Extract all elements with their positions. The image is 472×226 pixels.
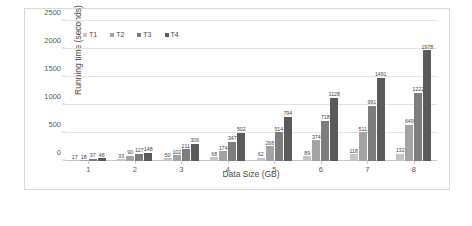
bar-rect[interactable] — [191, 144, 199, 161]
bar-rect[interactable] — [89, 159, 97, 161]
bar-value-label: 50 — [165, 152, 171, 158]
bar-rect[interactable] — [303, 156, 311, 161]
bar-value-label: 127 — [135, 147, 144, 153]
bar-t2[interactable]: 102 — [173, 21, 181, 161]
bar-t2[interactable]: 90 — [126, 21, 134, 161]
bar-t3[interactable]: 514 — [275, 21, 283, 161]
bar-rect[interactable] — [182, 149, 190, 161]
bar-t3[interactable]: 1222 — [414, 21, 422, 161]
bar-rect[interactable] — [71, 160, 79, 161]
bar-t1[interactable]: 50 — [164, 21, 172, 161]
bar-t2[interactable]: 174 — [219, 21, 227, 161]
y-tick-label: 500 — [48, 120, 61, 129]
bar-group: 33901271482 — [112, 21, 159, 161]
bar-t1[interactable]: 62 — [257, 21, 265, 161]
bar-rect[interactable] — [396, 154, 404, 161]
bar-value-label: 794 — [283, 110, 292, 116]
bar-rect[interactable] — [228, 142, 236, 161]
bar-rect[interactable] — [377, 78, 385, 161]
bar-rect[interactable] — [368, 106, 376, 161]
bar-t1[interactable]: 132 — [396, 21, 404, 161]
bar-t3[interactable]: 347 — [228, 21, 236, 161]
bar-rect[interactable] — [135, 154, 143, 161]
bar-group: 8937471811286 — [298, 21, 345, 161]
bar-value-label: 18 — [81, 154, 87, 160]
x-tick-mark — [88, 161, 89, 164]
bar-t1[interactable]: 33 — [117, 21, 125, 161]
bar-t2[interactable]: 18 — [80, 21, 88, 161]
bar-rect[interactable] — [321, 121, 329, 161]
bar-t4[interactable]: 794 — [284, 21, 292, 161]
bar-value-label: 17 — [72, 154, 78, 160]
bar-t2[interactable]: 268 — [266, 21, 274, 161]
bar-t4[interactable]: 46 — [98, 21, 106, 161]
bar-rect[interactable] — [210, 157, 218, 161]
bar-group: 132649122219788 — [391, 21, 438, 161]
bar-t2[interactable]: 511 — [359, 21, 367, 161]
bar-rect[interactable] — [284, 117, 292, 161]
bar-rect[interactable] — [275, 132, 283, 161]
bar-t4[interactable]: 306 — [191, 21, 199, 161]
bar-value-label: 148 — [144, 146, 153, 152]
bar-group: 681743475024 — [205, 21, 252, 161]
bar-t4[interactable]: 1128 — [330, 21, 338, 161]
bar-t4[interactable]: 1491 — [377, 21, 385, 161]
bar-group: 171837461 — [65, 21, 112, 161]
plot-area: 05001000150020002500 1718374613390127148… — [65, 21, 437, 161]
bar-rect[interactable] — [117, 159, 125, 161]
bar-t3[interactable]: 211 — [182, 21, 190, 161]
bar-t4[interactable]: 502 — [237, 21, 245, 161]
bar-t3[interactable]: 127 — [135, 21, 143, 161]
y-tick-label: 1500 — [44, 64, 61, 73]
bar-rect[interactable] — [98, 158, 106, 161]
bar-rect[interactable] — [237, 133, 245, 161]
bar-rect[interactable] — [312, 140, 320, 161]
bar-rect[interactable] — [144, 153, 152, 161]
bar-value-label: 306 — [190, 137, 199, 143]
bar-value-label: 37 — [90, 152, 96, 158]
bar-rect[interactable] — [266, 146, 274, 161]
bar-value-label: 33 — [118, 153, 124, 159]
x-tick-mark — [414, 161, 415, 164]
bar-rect[interactable] — [405, 125, 413, 161]
bar-group: 622685147945 — [251, 21, 298, 161]
bar-value-label: 174 — [219, 145, 228, 151]
bar-rect[interactable] — [126, 156, 134, 161]
x-tick-mark — [274, 161, 275, 164]
bar-rect[interactable] — [80, 160, 88, 161]
x-tick-mark — [367, 161, 368, 164]
bar-value-label: 502 — [237, 126, 246, 132]
y-tick-label: 2000 — [44, 36, 61, 45]
bar-value-label: 90 — [127, 149, 133, 155]
bar-rect[interactable] — [219, 151, 227, 161]
bar-value-label: 211 — [182, 143, 190, 149]
bar-t4[interactable]: 148 — [144, 21, 152, 161]
bar-value-label: 374 — [312, 134, 321, 140]
bar-rect[interactable] — [164, 158, 172, 161]
bar-value-label: 649 — [405, 118, 414, 124]
x-tick-mark — [228, 161, 229, 164]
y-tick-label: 2500 — [44, 8, 61, 17]
bar-t1[interactable]: 118 — [350, 21, 358, 161]
bar-t3[interactable]: 991 — [368, 21, 376, 161]
bar-rect[interactable] — [330, 98, 338, 161]
bar-value-label: 102 — [172, 149, 181, 155]
bar-t1[interactable]: 89 — [303, 21, 311, 161]
bar-rect[interactable] — [257, 158, 265, 161]
bar-t4[interactable]: 1978 — [423, 21, 431, 161]
bar-t3[interactable]: 37 — [89, 21, 97, 161]
bar-t1[interactable]: 17 — [71, 21, 79, 161]
bar-value-label: 118 — [350, 148, 358, 154]
bar-rect[interactable] — [350, 154, 358, 161]
bar-t2[interactable]: 374 — [312, 21, 320, 161]
bar-rect[interactable] — [173, 155, 181, 161]
bar-value-label: 89 — [304, 150, 310, 156]
x-axis-title: Data Size (GB) — [65, 169, 437, 179]
bar-rect[interactable] — [359, 132, 367, 161]
bar-t1[interactable]: 68 — [210, 21, 218, 161]
bar-rect[interactable] — [414, 93, 422, 161]
bar-groups: 1718374613390127148250102211306368174347… — [65, 21, 437, 161]
bar-value-label: 132 — [396, 147, 405, 153]
bar-rect[interactable] — [423, 50, 431, 161]
x-tick-mark — [181, 161, 182, 164]
